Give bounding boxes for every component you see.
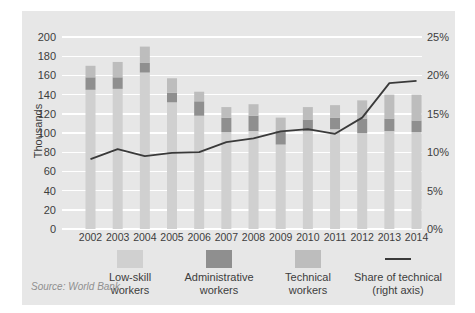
x-axis-year-label: 2007 [215, 231, 239, 243]
bar-segment-technical [330, 105, 340, 117]
left-axis-tick-label: 140 [38, 89, 56, 101]
left-axis-tick-label: 20 [44, 204, 56, 216]
left-axis-tick-label: 180 [38, 50, 56, 62]
left-axis-tick-label: 40 [44, 185, 56, 197]
bar-segment-administrative [384, 119, 394, 131]
bar-segment-administrative [140, 63, 150, 73]
bar-segment-technical [303, 107, 313, 119]
left-axis-title: Thousands [32, 104, 44, 158]
legend-item-line: Share of technical (right axis) [348, 250, 448, 297]
chart-figure: 0204060801001201401601802000%5%10%15%20%… [0, 0, 475, 313]
left-axis-tick-label: 160 [38, 69, 56, 81]
x-axis-year-label: 2008 [242, 231, 266, 243]
legend-color-swatch [295, 250, 321, 268]
right-axis-tick-label: 5% [427, 185, 443, 197]
bar-segment-low-skill [357, 133, 367, 229]
left-axis-tick-label: 60 [44, 165, 56, 177]
x-axis-year-label: 2003 [106, 231, 130, 243]
bar-segment-low-skill [276, 145, 286, 229]
x-axis-year-label: 2005 [160, 231, 184, 243]
bar-segment-technical [249, 104, 259, 116]
x-axis-year-label: 2012 [351, 231, 375, 243]
bar-segment-administrative [221, 118, 231, 132]
bar-segment-low-skill [113, 89, 123, 229]
bar-segment-low-skill [384, 131, 394, 229]
legend-color-swatch [206, 250, 232, 268]
bar-segment-technical [384, 95, 394, 119]
x-axis-year-label: 2010 [296, 231, 320, 243]
bar-segment-technical [412, 95, 422, 121]
bar-segment-technical [113, 62, 123, 77]
bar-segment-technical [194, 92, 204, 102]
legend-item-label: Share of technical (right axis) [354, 271, 442, 297]
bar-segment-administrative [412, 121, 422, 133]
x-axis-year-label: 2014 [405, 231, 429, 243]
x-axis-year-label: 2002 [79, 231, 103, 243]
right-axis-tick-label: 0% [427, 223, 443, 235]
bar-segment-administrative [194, 101, 204, 115]
bar-segment-low-skill [330, 129, 340, 229]
left-axis-tick-label: 0 [50, 223, 56, 235]
bar-segment-low-skill [221, 132, 231, 229]
bar-segment-low-skill [86, 90, 96, 229]
bar-segment-low-skill [412, 132, 422, 229]
legend-item-label: Administrative workers [184, 271, 253, 297]
x-axis-year-label: 2013 [378, 231, 402, 243]
x-axis-year-label: 2006 [188, 231, 212, 243]
legend-line-swatch-mark [385, 258, 411, 260]
legend-item-label: Technical workers [285, 271, 331, 297]
right-axis-tick-label: 10% [427, 146, 449, 158]
source-note: Source: World Bank [31, 281, 120, 292]
bar-segment-low-skill [303, 131, 313, 229]
right-axis-tick-label: 25% [427, 31, 449, 43]
bar-segment-administrative [167, 93, 177, 103]
bar-segment-technical [357, 100, 367, 118]
x-axis-year-label: 2004 [133, 231, 157, 243]
bar-segment-technical [276, 118, 286, 131]
left-axis-tick-label: 80 [44, 146, 56, 158]
bar-segment-low-skill [140, 73, 150, 229]
legend-color-swatch [117, 250, 143, 268]
bar-segment-administrative [330, 118, 340, 130]
bar-segment-low-skill [167, 102, 177, 229]
right-axis-tick-label: 20% [427, 69, 449, 81]
bar-segment-technical [221, 107, 231, 118]
x-axis-year-label: 2009 [269, 231, 293, 243]
left-axis-tick-label: 200 [38, 31, 56, 43]
x-axis-year-label: 2011 [324, 231, 347, 243]
bar-segment-technical [167, 78, 177, 92]
bar-segment-administrative [86, 77, 96, 89]
bar-segment-technical [86, 66, 96, 78]
legend-line-swatch [385, 250, 411, 268]
bar-segment-low-skill [194, 116, 204, 229]
legend-item-administrative: Administrative workers [179, 250, 259, 297]
bar-segment-low-skill [249, 131, 259, 229]
right-axis-tick-label: 15% [427, 108, 449, 120]
bar-segment-administrative [249, 116, 259, 131]
bar-segment-administrative [113, 77, 123, 89]
bar-segment-technical [140, 47, 150, 63]
legend-item-technical: Technical workers [273, 250, 343, 297]
